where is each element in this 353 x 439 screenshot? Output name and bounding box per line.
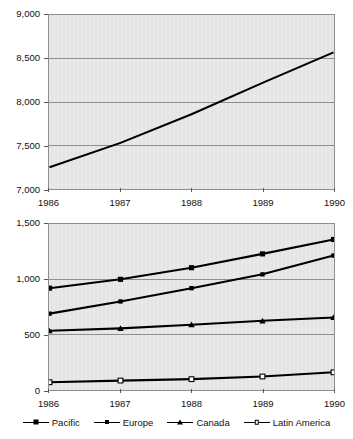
legend-marker-glyph [105,420,109,424]
plot-svg-bottom [49,224,334,390]
x-tick-mark [334,188,335,192]
plot-area-bottom [48,223,335,391]
x-tick-label: 1988 [181,399,202,409]
x-tick-label: 1990 [324,198,345,208]
legend-marker-filled-square-icon [23,418,49,427]
legend-marker-filled-square-small-icon [94,418,120,427]
legend-marker-open-square-icon [244,418,270,427]
y-tick-label: 7,000 [16,185,40,195]
chart-top: 7,0007,5008,0008,5009,000 19861987198819… [0,8,353,213]
x-tick-label: 1990 [324,399,345,409]
x-tick-mark [48,188,49,192]
x-tick-mark [120,389,121,393]
x-tick-mark [191,389,192,393]
x-tick-mark [263,188,264,192]
x-tick-label: 1987 [109,198,130,208]
chart-page: 7,0007,5008,0008,5009,000 19861987198819… [0,0,353,439]
x-tick-label: 1988 [181,198,202,208]
legend-item[interactable]: Latin America [244,417,331,428]
y-tick-label: 9,000 [16,9,40,19]
y-axis-top: 7,0007,5008,0008,5009,000 [0,8,44,213]
legend-label: Latin America [273,417,331,428]
chart-bottom: 05001,0001,500 19861987198819891990 [0,217,353,439]
plot-background-top [48,14,335,190]
clipped-title-strip [0,0,353,7]
legend-label: Canada [196,417,229,428]
x-tick-label: 1986 [38,198,59,208]
legend-marker-filled-triangle-icon [167,418,193,427]
legend-label: Europe [123,417,154,428]
legend-marker-glyph [177,420,183,425]
x-tick-label: 1989 [252,198,273,208]
y-tick-label: 8,500 [16,53,40,63]
x-tick-mark [120,188,121,192]
plot-background-bottom [48,223,335,391]
y-tick-label: 7,500 [16,141,40,151]
y-tick-label: 0 [35,386,40,396]
x-tick-label: 1989 [252,399,273,409]
x-tick-label: 1986 [38,399,59,409]
chart-legend: PacificEuropeCanadaLatin America [0,411,353,433]
legend-marker-glyph [254,420,259,425]
x-tick-mark [334,389,335,393]
plot-area-top [48,14,335,190]
x-tick-mark [191,188,192,192]
y-tick-label: 1,500 [16,218,40,228]
y-tick-label: 1,000 [16,274,40,284]
x-tick-mark [263,389,264,393]
x-tick-mark [48,389,49,393]
legend-item[interactable]: Canada [167,417,229,428]
y-tick-label: 8,000 [16,97,40,107]
legend-item[interactable]: Europe [94,417,154,428]
x-tick-label: 1987 [109,399,130,409]
legend-label: Pacific [52,417,80,428]
legend-item[interactable]: Pacific [23,417,80,428]
legend-marker-glyph [33,420,38,425]
y-tick-label: 500 [24,330,40,340]
plot-svg-top [49,15,334,189]
